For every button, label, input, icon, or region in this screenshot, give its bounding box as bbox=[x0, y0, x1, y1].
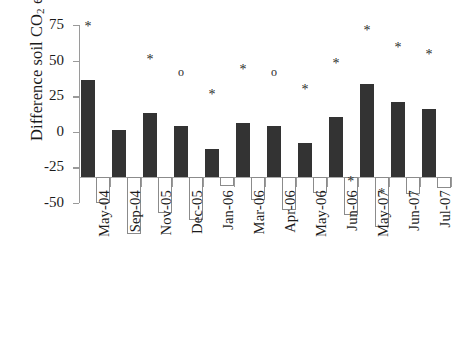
significance-marker-positive: * bbox=[143, 53, 157, 67]
significance-marker-positive: * bbox=[329, 57, 343, 71]
x-tick bbox=[172, 177, 173, 187]
bar-positive bbox=[298, 143, 312, 177]
y-tick-label: 0 bbox=[57, 123, 65, 140]
significance-marker-positive: o bbox=[174, 66, 188, 78]
x-tick-label: Dec-05 bbox=[189, 190, 206, 234]
x-tick bbox=[265, 177, 266, 187]
bar-positive bbox=[81, 80, 95, 177]
x-tick-label: Nov-05 bbox=[158, 190, 175, 236]
significance-marker-positive: * bbox=[360, 24, 374, 38]
x-axis-ticks bbox=[79, 177, 451, 189]
bar-positive bbox=[391, 102, 405, 177]
x-tick bbox=[389, 177, 390, 187]
x-tick-label: May-07 bbox=[375, 190, 392, 237]
x-tick-label: Jun-06 bbox=[344, 190, 361, 231]
x-tick bbox=[296, 177, 297, 187]
chart-root: Difference soil CO2 efflux (%) 7550250-2… bbox=[0, 0, 467, 348]
bar-positive bbox=[422, 109, 436, 177]
significance-marker-positive: * bbox=[422, 48, 436, 62]
x-tick-label: May-04 bbox=[96, 190, 113, 237]
bar-positive bbox=[112, 130, 126, 177]
x-tick-label: Jan-06 bbox=[220, 190, 237, 230]
x-tick bbox=[451, 177, 452, 187]
x-tick-label: Mar-06 bbox=[251, 190, 268, 234]
significance-marker-positive: * bbox=[391, 41, 405, 55]
significance-marker-positive: * bbox=[298, 83, 312, 97]
bar-positive bbox=[174, 126, 188, 177]
x-tick bbox=[327, 177, 328, 187]
x-tick bbox=[420, 177, 421, 187]
significance-marker-positive: * bbox=[236, 63, 250, 77]
bar-positive bbox=[143, 113, 157, 177]
x-tick bbox=[203, 177, 204, 187]
bar-positive bbox=[329, 117, 343, 177]
y-axis-title: Difference soil CO2 efflux (%) bbox=[27, 0, 47, 163]
bar-positive bbox=[205, 149, 219, 177]
x-tick bbox=[234, 177, 235, 187]
x-tick-label: Jul-07 bbox=[437, 190, 454, 227]
y-tick-label: -50 bbox=[44, 194, 64, 211]
y-axis-title-post: efflux (%) bbox=[27, 0, 46, 8]
y-tick-label: -25 bbox=[44, 159, 64, 176]
x-tick-label: Apr-06 bbox=[282, 190, 299, 233]
x-tick-label: Jun-07 bbox=[406, 190, 423, 231]
x-tick bbox=[358, 177, 359, 187]
x-tick-label: May-06 bbox=[313, 190, 330, 237]
significance-marker-positive: * bbox=[205, 88, 219, 102]
y-tick-label: 25 bbox=[49, 87, 64, 104]
bar-positive bbox=[360, 84, 374, 177]
y-tick-label: 50 bbox=[49, 52, 64, 69]
significance-marker-positive: o bbox=[267, 66, 281, 78]
x-tick-label: Sep-04 bbox=[127, 190, 144, 232]
y-axis-title-pre: Difference soil CO bbox=[27, 14, 46, 141]
x-tick bbox=[79, 177, 80, 187]
bar-positive bbox=[267, 126, 281, 177]
x-axis-labels: May-04Sep-04Nov-05Dec-05Jan-06Mar-06Apr-… bbox=[79, 190, 451, 340]
x-tick bbox=[141, 177, 142, 187]
x-tick bbox=[110, 177, 111, 187]
y-axis-title-subscript: 2 bbox=[34, 8, 46, 14]
significance-marker-positive: * bbox=[81, 20, 95, 34]
bar-positive bbox=[236, 123, 250, 177]
y-tick-label: 75 bbox=[49, 16, 64, 33]
